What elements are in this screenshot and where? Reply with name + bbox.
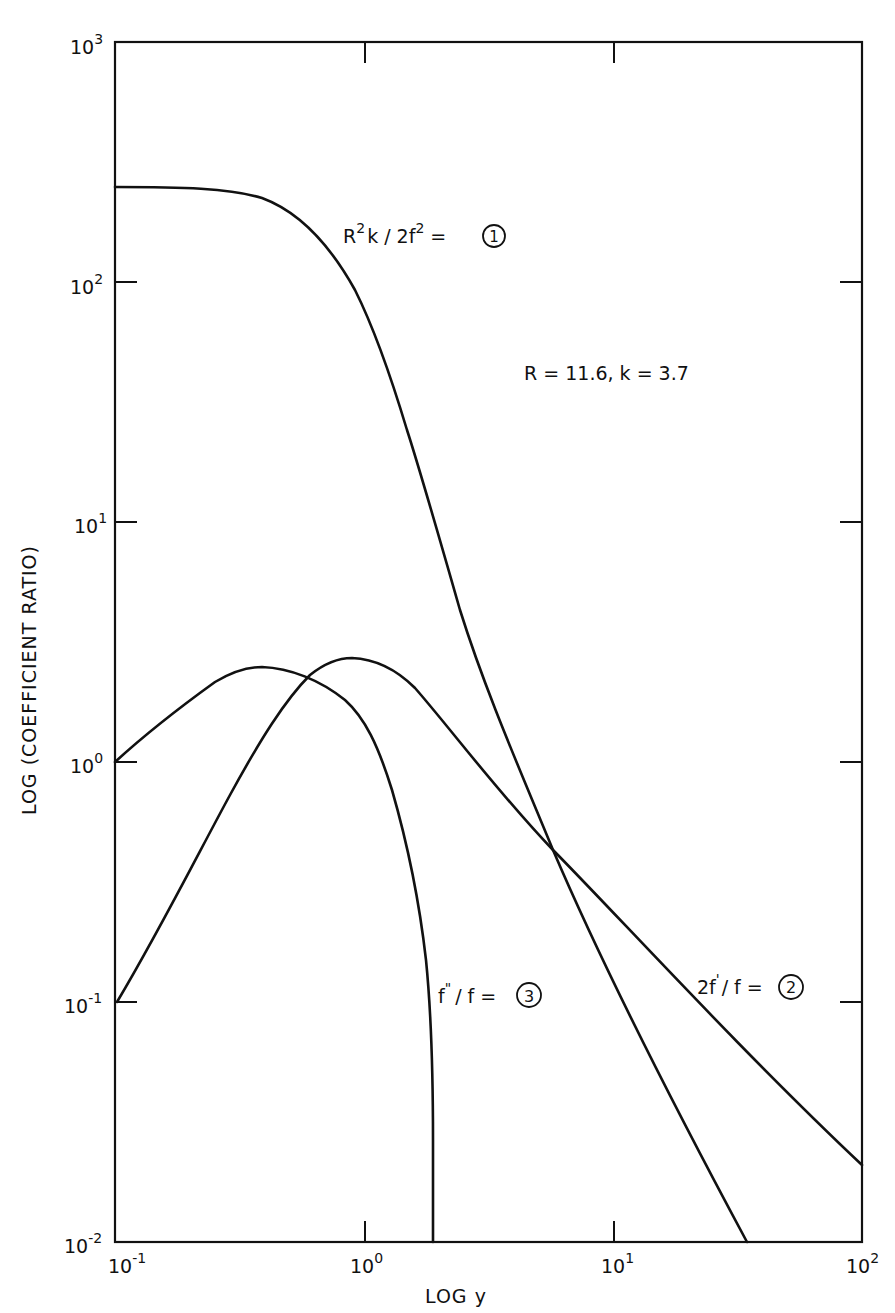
curve-1-r2k-over-2f2 xyxy=(115,187,747,1242)
y-tick-label: 10-2 xyxy=(64,1230,102,1257)
svg-text:2: 2 xyxy=(786,978,796,997)
svg-text:3: 3 xyxy=(524,987,534,1006)
x-ticks xyxy=(365,42,614,1242)
svg-text:R2k / 2f2 =: R2k / 2f2 = xyxy=(343,220,446,247)
y-tick-label: 102 xyxy=(70,271,103,298)
y-tick-label: 101 xyxy=(74,510,107,537)
svg-text:1: 1 xyxy=(489,228,499,246)
y-tick-label: 100 xyxy=(70,750,103,777)
curve-3-fdoubleprime-over-f xyxy=(115,667,433,1242)
svg-text:f"/ f =: f"/ f = xyxy=(438,980,496,1007)
x-tick-label: 101 xyxy=(601,1250,634,1277)
svg-text:2f'/ f =: 2f'/ f = xyxy=(697,971,763,998)
x-tick-labels: 10-1 100 101 102 xyxy=(108,1250,879,1277)
curve-2-label: 2f'/ f = 2 xyxy=(697,971,803,999)
y-axis-title: LOG (COEFFICIENT RATIO) xyxy=(18,545,40,815)
parameters-label: R = 11.6, k = 3.7 xyxy=(524,362,689,384)
y-tick-label: 10-1 xyxy=(64,990,102,1017)
log-log-chart: 103 102 101 100 10-1 10-2 10-1 100 101 1… xyxy=(0,0,895,1313)
curve-1-label: R2k / 2f2 = 1 xyxy=(343,220,505,247)
curve-3-label: f"/ f = 3 xyxy=(438,980,541,1007)
x-axis-title: LOG y xyxy=(425,1285,487,1307)
plot-frame xyxy=(115,42,862,1242)
y-tick-label: 103 xyxy=(70,31,103,58)
x-tick-label: 10-1 xyxy=(108,1250,146,1277)
curve-2-2fprime-over-f xyxy=(117,658,862,1165)
y-ticks xyxy=(115,282,862,1002)
x-tick-label: 102 xyxy=(846,1250,879,1277)
y-tick-labels: 103 102 101 100 10-1 10-2 xyxy=(64,31,107,1257)
x-tick-label: 100 xyxy=(350,1250,383,1277)
